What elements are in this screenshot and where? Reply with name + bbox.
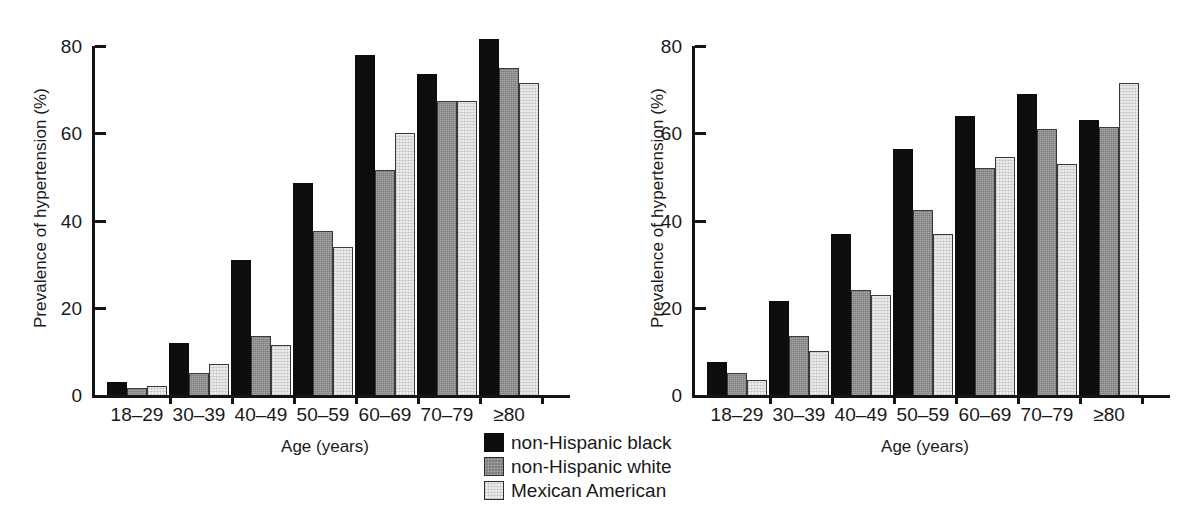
bar	[809, 351, 829, 395]
bar	[271, 345, 291, 395]
y-axis-tick-label: 0	[636, 386, 682, 405]
bar	[375, 170, 395, 395]
bar	[975, 168, 995, 395]
chart-panel-right: Prevalence of hypertension (%) Age (year…	[601, 0, 1202, 460]
bar	[189, 373, 209, 395]
x-axis-line	[692, 395, 1170, 398]
legend-item: non-Hispanic white	[484, 454, 672, 478]
bar	[457, 101, 477, 395]
x-axis-tick	[417, 398, 420, 404]
y-axis-label: Prevalence of hypertension (%)	[648, 43, 668, 373]
bar	[933, 234, 953, 395]
legend: non-Hispanic blacknon-Hispanic whiteMexi…	[484, 430, 672, 502]
bar	[1037, 129, 1057, 395]
x-axis-tick-label: 30–39	[164, 405, 234, 424]
bar-group	[955, 46, 1015, 395]
x-axis-tick	[1079, 398, 1082, 404]
bar	[871, 295, 891, 395]
y-axis-tick-label: 0	[36, 386, 82, 405]
y-axis-label: Prevalence of hypertension (%)	[31, 43, 51, 373]
y-axis-tick-label: 40	[36, 212, 82, 231]
bar	[831, 234, 851, 395]
bar	[417, 74, 437, 395]
bar	[519, 83, 539, 395]
y-axis-tick-label: 80	[36, 37, 82, 56]
y-axis-tick	[95, 45, 106, 48]
bar	[747, 380, 767, 395]
bar	[437, 101, 457, 395]
x-axis-tick-label: 70–79	[1012, 405, 1082, 424]
x-axis-tick-label: 70–79	[412, 405, 482, 424]
bar-group	[1017, 46, 1077, 395]
legend-swatch-icon	[484, 457, 504, 476]
bar	[955, 116, 975, 395]
bar	[251, 336, 271, 395]
figure: Prevalence of hypertension (%) Age (year…	[0, 0, 1202, 522]
bar	[995, 157, 1015, 395]
x-axis-tick	[169, 398, 172, 404]
x-axis-tick-label: ≥80	[474, 405, 544, 424]
x-axis-tick-label: 60–69	[950, 405, 1020, 424]
bar	[1017, 94, 1037, 395]
bar	[913, 210, 933, 395]
bar	[355, 55, 375, 395]
bar	[169, 343, 189, 395]
bar-group	[231, 46, 291, 395]
x-axis-line	[92, 395, 570, 398]
bar	[851, 290, 871, 395]
y-axis-tick	[695, 307, 706, 310]
bar	[231, 260, 251, 395]
x-axis-tick	[293, 398, 296, 404]
bar	[1057, 164, 1077, 395]
bar	[769, 301, 789, 395]
x-axis-tick-label: 18–29	[702, 405, 772, 424]
bar-group	[769, 46, 829, 395]
legend-swatch-icon	[484, 433, 504, 452]
y-axis-tick	[695, 132, 706, 135]
x-axis-tick-label: 30–39	[764, 405, 834, 424]
x-axis-tick	[479, 398, 482, 404]
x-axis-tick	[1141, 398, 1144, 404]
bar-group	[169, 46, 229, 395]
legend-label: Mexican American	[511, 481, 666, 500]
x-axis-tick	[955, 398, 958, 404]
bar	[789, 336, 809, 395]
chart-panel-left: Prevalence of hypertension (%) Age (year…	[0, 0, 601, 460]
bar-group	[1079, 46, 1139, 395]
bar	[209, 364, 229, 395]
x-axis-tick-label: 50–59	[888, 405, 958, 424]
x-axis-tick-label: 60–69	[350, 405, 420, 424]
bar-group	[107, 46, 167, 395]
y-axis-tick-label: 20	[636, 299, 682, 318]
x-axis-tick-label: ≥80	[1074, 405, 1144, 424]
bar	[313, 231, 333, 395]
legend-item: Mexican American	[484, 478, 672, 502]
bar	[727, 373, 747, 395]
x-axis-tick	[541, 398, 544, 404]
bar	[147, 386, 167, 395]
bar	[499, 68, 519, 395]
legend-swatch-icon	[484, 481, 504, 500]
x-axis-tick	[769, 398, 772, 404]
x-axis-tick-label: 40–49	[226, 405, 296, 424]
y-axis-tick	[95, 132, 106, 135]
bar	[1119, 83, 1139, 395]
x-axis-tick	[893, 398, 896, 404]
bar	[707, 362, 727, 395]
x-axis-tick	[355, 398, 358, 404]
y-axis-tick-label: 40	[636, 212, 682, 231]
bar-group	[479, 46, 539, 395]
x-axis-tick-label: 40–49	[826, 405, 896, 424]
legend-label: non-Hispanic black	[511, 433, 672, 452]
y-axis-tick-label: 20	[36, 299, 82, 318]
y-axis-tick-label: 60	[36, 124, 82, 143]
bar	[1079, 120, 1099, 395]
plot-area-left	[95, 46, 555, 395]
x-axis-tick-label: 18–29	[102, 405, 172, 424]
bar	[1099, 127, 1119, 395]
bar-group	[831, 46, 891, 395]
bar	[333, 247, 353, 395]
bar	[395, 133, 415, 395]
y-axis-tick	[695, 220, 706, 223]
x-axis-tick	[831, 398, 834, 404]
